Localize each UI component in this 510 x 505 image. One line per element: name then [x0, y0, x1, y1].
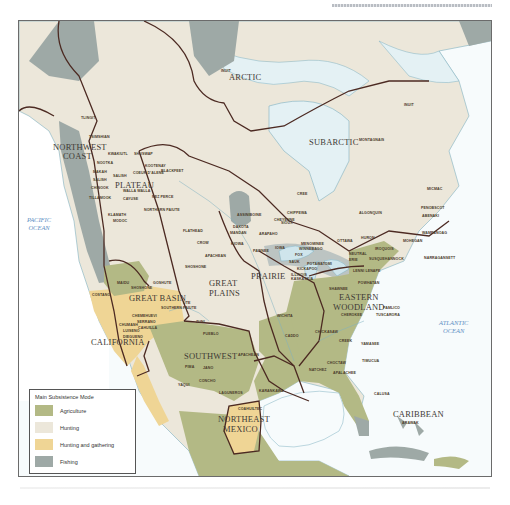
- tribe-label: CREE: [297, 192, 307, 196]
- tribe-label: MICMAC: [427, 187, 442, 191]
- tribe-label: NORTHERN PAIUTE: [144, 208, 180, 212]
- tribe-label: YAMASEE: [361, 342, 379, 346]
- tribe-label: TLINGIT: [81, 116, 96, 120]
- region-great-plains-2: PLAINS: [209, 289, 240, 298]
- hunting-gathering-swatch: [35, 439, 53, 450]
- tribe-label: JANO: [203, 366, 213, 370]
- tribe-label: SHUSWAP: [134, 152, 153, 156]
- tribe-label: APACHEAN: [238, 353, 259, 357]
- legend-item-hunting-gathering: Hunting and gathering: [35, 438, 114, 451]
- tribe-label: CHOCTAW: [327, 361, 346, 365]
- tribe-label: SIOUX: [281, 221, 293, 225]
- tribe-label: PIMA: [185, 365, 194, 369]
- tribe-label: IROQUOIS: [375, 247, 394, 251]
- tribe-label: POTAWATOMI: [307, 262, 332, 266]
- region-caribbean: CARIBBEAN: [393, 410, 444, 419]
- tribe-label: SALISH: [93, 178, 107, 182]
- ocean-label-pacific: PACIFIC OCEAN: [27, 216, 51, 232]
- tribe-label: TILLAMOOK: [89, 196, 111, 200]
- caption-rule: [20, 487, 490, 489]
- tribe-label: CROW: [197, 241, 209, 245]
- tribe-label: KOOTENAY: [145, 164, 166, 168]
- tribe-label: WICHITA: [277, 314, 293, 318]
- tribe-label: MENOMINEE: [301, 242, 324, 246]
- tribe-label: SHAWNEE: [329, 287, 348, 291]
- tribe-label: WALLA WALLA: [123, 189, 151, 193]
- tribe-label: SHOSHONE: [131, 286, 152, 290]
- tribe-label: INUIT: [404, 103, 414, 107]
- tribe-label: CAYUSE: [123, 197, 138, 201]
- tribe-label: WAMPANOAG: [422, 231, 447, 235]
- region-california: CALIFORNIA: [91, 338, 144, 347]
- tribe-label: FOX: [295, 253, 303, 257]
- tribe-label: ASSINIBOINE: [237, 213, 261, 217]
- tribe-label: KICKAPOO: [297, 267, 317, 271]
- region-arctic: ARCTIC: [229, 73, 261, 82]
- tribe-label: ABENAKI: [422, 214, 439, 218]
- region-prairie: PRAIRIE: [251, 272, 285, 281]
- tribe-label: TUSCARORA: [376, 313, 400, 317]
- tribe-label: MONTAGNAIS: [359, 138, 384, 142]
- tribe-label: CHEMEHUEVI: [132, 314, 157, 318]
- tribe-label: IOWA: [275, 246, 285, 250]
- agriculture-swatch: [35, 405, 53, 416]
- tribe-label: MAKAH: [93, 170, 107, 174]
- tribe-label: OTTAWA: [337, 239, 353, 243]
- tribe-label: APALACHEE: [333, 371, 356, 375]
- tribe-label: ARAPAHO: [259, 232, 278, 236]
- legend-item-fishing: Fishing: [35, 455, 78, 468]
- tribe-label: YAQUI: [178, 383, 190, 387]
- tribe-label: LUISENO: [123, 329, 140, 333]
- tribe-label: NOOTKA: [97, 161, 113, 165]
- region-eastern-woodland-2: WOODLAND: [333, 303, 385, 312]
- tribe-label: CAHUILLA: [138, 326, 157, 330]
- tribe-label: KLAMATH: [108, 213, 126, 217]
- tribe-label: PENOBSCOT: [421, 206, 445, 210]
- tribe-label: SERRANO: [137, 320, 156, 324]
- tribe-label: APACHEAN: [205, 254, 226, 258]
- ocean-label-atlantic: ATLANTIC OCEAN: [439, 319, 468, 335]
- tribe-label: TSIMSHIAN: [89, 135, 110, 139]
- tribe-label: KASKASKIA: [291, 277, 313, 281]
- tribe-label: POWHATAN: [358, 281, 379, 285]
- tribe-label: CHUMASH: [119, 323, 138, 327]
- tribe-label: CHIPPEWA: [287, 211, 307, 215]
- hunting-swatch: [35, 422, 53, 433]
- tribe-label: SHOSHONE: [185, 265, 206, 269]
- tribe-label: GOSHUTE: [153, 281, 171, 285]
- tribe-label: MODOC: [113, 219, 127, 223]
- tribe-label: ERIE: [349, 258, 358, 262]
- tribe-label: CREEK: [339, 339, 352, 343]
- legend-item-agriculture: Agriculture: [35, 404, 86, 417]
- tribe-label: FLATHEAD: [183, 229, 203, 233]
- tribe-label: NEZ PERCE: [152, 195, 173, 199]
- region-great-basin: GREAT BASIN: [129, 294, 186, 303]
- region-great-plains-1: GREAT: [209, 279, 237, 288]
- tribe-label: ARAWAK: [402, 421, 419, 425]
- region-eastern-woodland-1: EASTERN: [339, 293, 379, 302]
- tribe-label: COAHUILTEC: [238, 407, 262, 411]
- tribe-label: INUIT: [221, 69, 231, 73]
- tribe-label: CHICKASAW: [315, 330, 338, 334]
- tribe-label: PAWNEE: [253, 249, 269, 253]
- tribe-label: CADDO: [285, 334, 299, 338]
- tribe-label: CHINOOK: [91, 186, 109, 190]
- region-northeast-mexico-1: NORTHEAST: [218, 415, 270, 424]
- tribe-label: SAUK: [289, 260, 300, 264]
- tribe-label: COSTANO: [92, 293, 110, 297]
- map-frame: PACIFIC OCEAN ATLANTIC OCEAN ARCTIC SUBA…: [18, 20, 492, 477]
- tribe-label: HURON: [361, 236, 375, 240]
- tribe-label: ALGONQUIN: [359, 211, 382, 215]
- tribe-label: TIMUCUA: [362, 359, 379, 363]
- tribe-label: DIEGUENO: [123, 335, 143, 339]
- tribe-label: MOHEGAN: [403, 239, 422, 243]
- fishing-swatch: [35, 456, 53, 467]
- tribe-label: COEUR D'ALENE: [133, 171, 164, 175]
- tribe-label: MAIDU: [117, 281, 129, 285]
- tribe-label: UTE: [183, 301, 191, 305]
- tribe-label: NATCHEZ: [309, 368, 327, 372]
- tribe-label: BLACKFEET: [161, 169, 184, 173]
- tribe-label: CONCHO: [199, 379, 216, 383]
- tribe-label: PUEBLO: [203, 332, 219, 336]
- tribe-label: KARANKAWA: [259, 389, 284, 393]
